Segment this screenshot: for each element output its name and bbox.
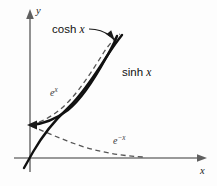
cosh-leader-arrowhead: [107, 30, 116, 41]
x-axis-label: x: [200, 166, 205, 177]
cosh-leader-line: [89, 29, 110, 36]
curve-cosh-x: [31, 36, 117, 125]
label-sinh-x: sinh x: [122, 67, 151, 79]
plot-canvas: [0, 0, 217, 186]
label-e-pos-exponent: x: [54, 86, 57, 94]
curve-sinh-x: [24, 35, 122, 168]
label-e-neg-exponent: −x: [117, 134, 125, 142]
label-cosh-text: cosh: [52, 23, 76, 35]
y-axis-arrowhead: [26, 9, 34, 19]
curve-e-pos-x: [31, 34, 120, 125]
hyperbolic-functions-figure: cosh x sinh x ex e−x x y: [0, 0, 217, 186]
label-cosh-x: cosh x: [52, 24, 85, 36]
label-e-neg-x: e−x: [113, 136, 126, 146]
x-axis-arrowhead: [197, 154, 207, 162]
label-sinh-text: sinh: [122, 66, 143, 78]
cosh-y-intercept-arrowhead: [27, 121, 37, 130]
label-e-pos-x: ex: [50, 88, 58, 98]
label-sinh-variable: x: [146, 66, 151, 78]
y-axis-label: y: [36, 6, 41, 17]
label-cosh-variable: x: [80, 23, 85, 35]
